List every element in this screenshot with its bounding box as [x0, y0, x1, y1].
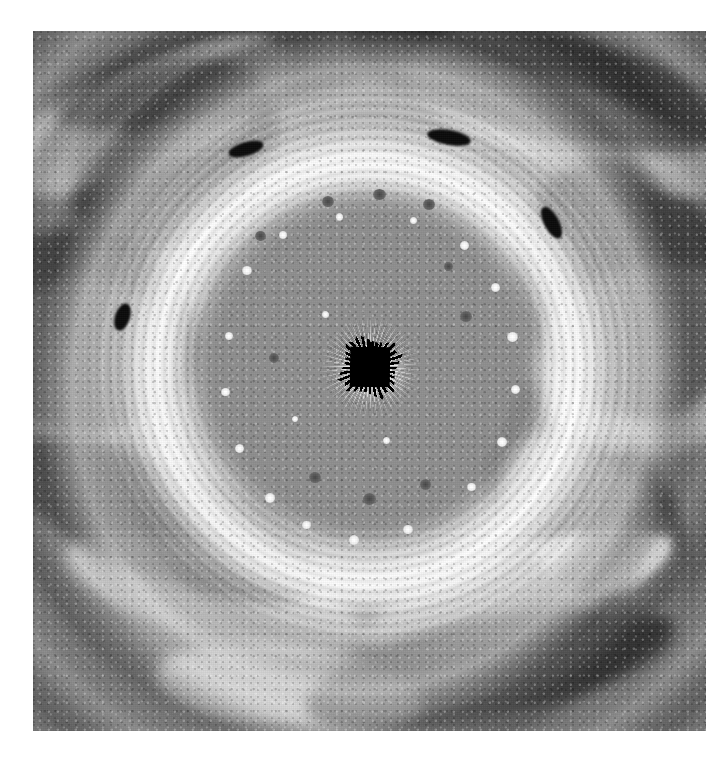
image-caption: [0, 0, 1, 1]
vignette-layer: [33, 31, 706, 731]
page-canvas: [0, 0, 717, 767]
polar-projection-image: [33, 31, 706, 731]
